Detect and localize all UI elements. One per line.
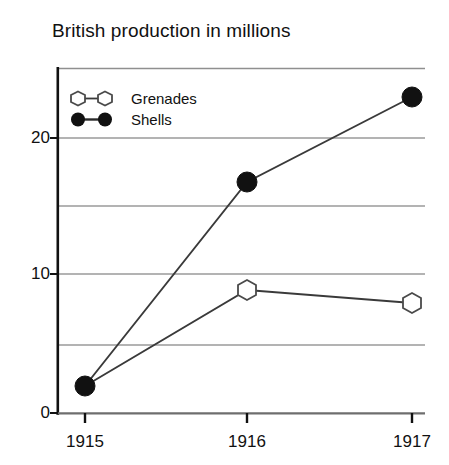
legend-item-shells: Shells: [65, 109, 225, 130]
x-axis-label-1917: 1917: [393, 432, 431, 452]
x-axis-label-1915: 1915: [66, 432, 104, 452]
legend-item-grenades: Grenades: [65, 88, 225, 109]
x-axis-tick-labels: 1915 1916 1917: [0, 0, 449, 465]
x-axis-label-1916: 1916: [228, 432, 266, 452]
legend-label-shells: Shells: [125, 111, 172, 128]
chart-container: British production in millions: [0, 0, 449, 465]
chart-legend: Grenades Shells: [65, 88, 225, 130]
circle-filled-icon: [65, 109, 125, 130]
legend-label-grenades: Grenades: [125, 90, 197, 107]
hexagon-open-icon: [65, 88, 125, 109]
